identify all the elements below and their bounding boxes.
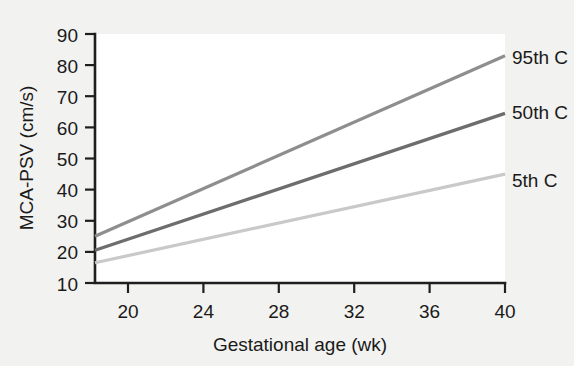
y-tick-label: 50 xyxy=(57,149,78,170)
series-label-95th: 95th C xyxy=(512,47,568,68)
y-tick-label: 90 xyxy=(57,25,78,46)
mca-psv-gestational-age-chart: 90 80 70 60 50 40 30 20 10 20 24 28 32 3… xyxy=(0,0,574,366)
y-tick-label: 60 xyxy=(57,118,78,139)
series-label-5th: 5th C xyxy=(512,170,557,191)
y-tick-label: 70 xyxy=(57,87,78,108)
x-axis-title: Gestational age (wk) xyxy=(213,334,387,355)
chart-figure: 90 80 70 60 50 40 30 20 10 20 24 28 32 3… xyxy=(0,0,574,366)
y-tick-label: 40 xyxy=(57,180,78,201)
y-tick-label: 20 xyxy=(57,242,78,263)
y-tick-label: 80 xyxy=(57,56,78,77)
x-tick-label: 36 xyxy=(419,301,440,322)
y-tick-label: 30 xyxy=(57,211,78,232)
x-tick-label: 32 xyxy=(344,301,365,322)
x-tick-label: 20 xyxy=(117,301,138,322)
plot-area-background xyxy=(95,34,505,283)
y-tick-label: 10 xyxy=(57,274,78,295)
x-tick-label: 24 xyxy=(193,301,215,322)
y-axis-title: MCA-PSV (cm/s) xyxy=(16,86,37,231)
x-tick-label: 40 xyxy=(494,301,515,322)
x-tick-label: 28 xyxy=(268,301,289,322)
series-label-50th: 50th C xyxy=(512,102,568,123)
y-axis-tick-labels: 90 80 70 60 50 40 30 20 10 xyxy=(57,25,78,295)
